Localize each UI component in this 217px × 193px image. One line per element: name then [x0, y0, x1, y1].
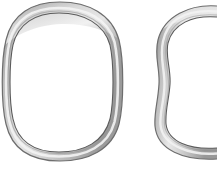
tracheal-ring-figure: normal — [0, 0, 217, 193]
caption-normal-line-1: normal — [0, 191, 128, 193]
tracheomalacia-ring-shading-group — [128, 0, 217, 154]
normal-ring-inner-contour — [10, 13, 113, 152]
normal-ring-shading-group — [0, 0, 128, 157]
tracheomalacia-cartilage-ring-illustration — [128, 0, 217, 166]
panel-tracheomalacia: trachea (cartilage — [128, 0, 217, 193]
normal-cartilage-ring-illustration — [0, 0, 128, 166]
panel-normal: normal — [0, 0, 128, 193]
caption-normal: normal — [0, 167, 128, 193]
tracheomalacia-ring-inner-contour — [166, 17, 217, 149]
tracheomalacia-ring-inner-shadow — [164, 15, 217, 151]
